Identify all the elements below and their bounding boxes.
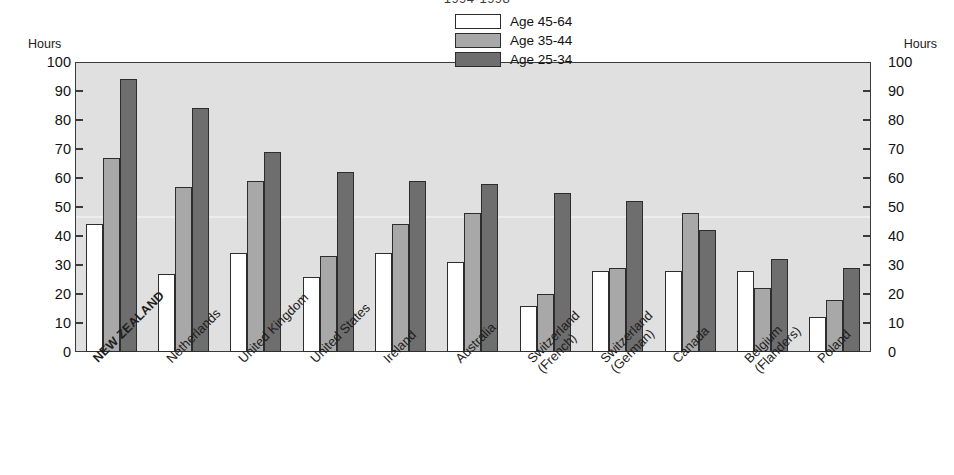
y-tick-label-right-0: 0 (888, 345, 896, 360)
y-tick-label-right-60: 60 (888, 171, 904, 186)
y-tick-label-right-80: 80 (888, 113, 904, 128)
bar-group (364, 62, 436, 352)
bar[interactable] (375, 253, 392, 352)
bar[interactable] (447, 262, 464, 352)
bar-group (799, 62, 871, 352)
y-axis-label-right: Hours (904, 37, 937, 51)
legend-item[interactable]: Age 25-34 (455, 52, 572, 67)
legend-label: Age 25-34 (510, 52, 572, 67)
y-tick-label-left-90: 90 (55, 84, 71, 99)
y-tick-label-right-20: 20 (888, 287, 904, 302)
legend-item[interactable]: Age 45-64 (455, 14, 572, 29)
y-tick-label-right-50: 50 (888, 200, 904, 215)
y-tick-label-left-20: 20 (55, 287, 71, 302)
y-tick-label-left-0: 0 (63, 345, 71, 360)
x-axis-category-labels: NEW ZEALANDNetherlandsUnited KingdomUnit… (75, 352, 871, 472)
y-tick-label-left-60: 60 (55, 171, 71, 186)
chart-legend: Age 45-64Age 35-44Age 25-34 (455, 14, 572, 67)
y-tick-label-right-10: 10 (888, 316, 904, 331)
legend-label: Age 45-64 (510, 14, 572, 29)
y-tick-label-left-30: 30 (55, 258, 71, 273)
bar[interactable] (592, 271, 609, 352)
bar[interactable] (303, 277, 320, 352)
y-tick-label-left-100: 100 (47, 55, 71, 70)
bar[interactable] (665, 271, 682, 352)
y-tick-label-right-40: 40 (888, 229, 904, 244)
legend-label: Age 35-44 (510, 33, 572, 48)
legend-swatch (455, 52, 501, 67)
y-tick-label-right-100: 100 (888, 55, 912, 70)
bar-series-container (75, 62, 871, 352)
bar[interactable] (409, 181, 426, 352)
legend-swatch (455, 33, 501, 48)
y-tick-label-right-70: 70 (888, 142, 904, 157)
bar-group (654, 62, 726, 352)
y-tick-label-left-80: 80 (55, 113, 71, 128)
legend-item[interactable]: Age 35-44 (455, 33, 572, 48)
y-tick-label-right-90: 90 (888, 84, 904, 99)
bar[interactable] (737, 271, 754, 352)
y-tick-label-left-10: 10 (55, 316, 71, 331)
bar[interactable] (230, 253, 247, 352)
y-axis-label-left: Hours (28, 37, 61, 51)
bar[interactable] (86, 224, 103, 352)
y-tick-label-left-50: 50 (55, 200, 71, 215)
bar[interactable] (103, 158, 120, 352)
y-tick-label-right-30: 30 (888, 258, 904, 273)
bar[interactable] (158, 274, 175, 352)
legend-swatch (455, 14, 501, 29)
bar-group (726, 62, 798, 352)
y-tick-label-left-70: 70 (55, 142, 71, 157)
bar[interactable] (247, 181, 264, 352)
bar-group (437, 62, 509, 352)
y-tick-label-left-40: 40 (55, 229, 71, 244)
chart-title: 1994-1998 (0, 0, 954, 6)
